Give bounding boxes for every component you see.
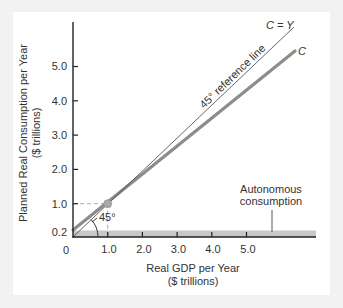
x-tick-label-2: 2.0 bbox=[136, 243, 151, 255]
origin-label: 0 bbox=[63, 244, 69, 256]
y-axis-units: ($ trillions) bbox=[30, 108, 42, 159]
x-tick-label-3: 3.0 bbox=[171, 243, 186, 255]
x-tick-label-1: 1.0 bbox=[101, 243, 116, 255]
x-axis-title: Real GDP per Year bbox=[146, 262, 240, 274]
intersection-point bbox=[104, 200, 112, 208]
y-tick-label-2: 2.0 bbox=[52, 163, 67, 175]
cy-line-label: C = Y bbox=[266, 19, 294, 31]
y-tick-label-5: 5.0 bbox=[52, 60, 67, 72]
c-line-label: C bbox=[298, 45, 306, 57]
y-axis-title: Planned Real Consumption per Year bbox=[17, 44, 29, 222]
consumption-function-chart: 1.0 2.0 3.0 4.0 5.0 0.2 0 1.0 2.0 3.0 4.… bbox=[0, 0, 343, 308]
y-tick-label-1: 1.0 bbox=[52, 198, 67, 210]
autonomous-label-line2: consumption bbox=[240, 195, 302, 207]
x-tick-label-4: 4.0 bbox=[205, 243, 220, 255]
x-axis-units: ($ trillions) bbox=[168, 275, 219, 287]
autonomous-label-line1: Autonomous bbox=[240, 183, 302, 195]
y-tick-label-3: 3.0 bbox=[52, 129, 67, 141]
autonomous-consumption-band bbox=[73, 231, 316, 238]
y-ticks bbox=[73, 67, 78, 204]
y-tick-label-4: 4.0 bbox=[52, 95, 67, 107]
x-tick-label-5: 5.0 bbox=[240, 243, 255, 255]
angle-label: 45° bbox=[99, 211, 116, 223]
y-tick-label-0-2: 0.2 bbox=[52, 226, 67, 238]
